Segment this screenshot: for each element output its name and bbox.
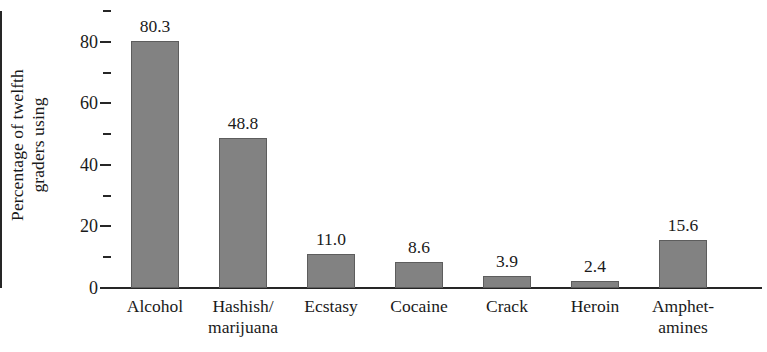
y-axis-line <box>0 11 2 288</box>
y-axis-tick-label: 80 <box>52 33 98 51</box>
y-axis-minor-tick <box>103 256 111 258</box>
x-axis-category-label-line: Hashish/ <box>197 296 289 317</box>
bar-value-label: 15.6 <box>639 216 727 234</box>
y-axis-title: Percentage of twelfth graders using <box>0 0 56 290</box>
x-axis-category-label-line: Heroin <box>549 296 641 317</box>
bar-value-label: 3.9 <box>463 252 551 270</box>
x-axis-category-label: Crack <box>461 296 553 317</box>
bar <box>395 262 443 288</box>
bar <box>219 138 267 288</box>
y-axis-tick-label: 0 <box>52 279 98 297</box>
y-axis-minor-tick <box>103 133 111 135</box>
bar <box>307 254 355 288</box>
x-axis-category-label: Cocaine <box>373 296 465 317</box>
y-axis-title-line-2: graders using <box>28 69 49 221</box>
x-axis-category-label: Heroin <box>549 296 641 317</box>
bar <box>131 41 179 288</box>
y-axis-major-tick <box>100 102 111 104</box>
y-axis-major-tick <box>100 287 111 289</box>
bar-chart: Percentage of twelfth graders using 0204… <box>0 0 767 352</box>
x-axis-category-label-line: marijuana <box>197 317 289 338</box>
y-axis-title-line-1: Percentage of twelfth <box>7 69 28 221</box>
y-axis-major-tick <box>100 164 111 166</box>
x-axis-category-label-line: Alcohol <box>109 296 201 317</box>
x-axis-category-label: Hashish/marijuana <box>197 296 289 338</box>
x-axis-category-label-line: Crack <box>461 296 553 317</box>
bar-value-label: 48.8 <box>199 114 287 132</box>
bar-value-label: 2.4 <box>551 257 639 275</box>
bar <box>483 276 531 288</box>
x-axis-category-label: Amphet-amines <box>637 296 729 338</box>
x-axis-category-label-line: amines <box>637 317 729 338</box>
x-axis-category-label-line: Cocaine <box>373 296 465 317</box>
y-axis-major-tick <box>100 225 111 227</box>
y-axis-minor-tick <box>103 72 111 74</box>
y-axis-major-tick <box>100 41 111 43</box>
x-axis-category-label-line: Ecstasy <box>285 296 377 317</box>
y-axis-tick-label: 20 <box>52 217 98 235</box>
x-axis-category-label: Ecstasy <box>285 296 377 317</box>
x-axis-category-label-line: Amphet- <box>637 296 729 317</box>
x-axis-category-label: Alcohol <box>109 296 201 317</box>
y-axis-tick-label: 40 <box>52 156 98 174</box>
bar <box>571 281 619 288</box>
bar-value-label: 8.6 <box>375 238 463 256</box>
y-axis-minor-tick <box>103 195 111 197</box>
y-axis-tick-label: 60 <box>52 94 98 112</box>
bar-value-label: 11.0 <box>287 230 375 248</box>
y-axis-minor-tick <box>103 10 111 12</box>
bar <box>659 240 707 288</box>
bar-value-label: 80.3 <box>111 17 199 35</box>
